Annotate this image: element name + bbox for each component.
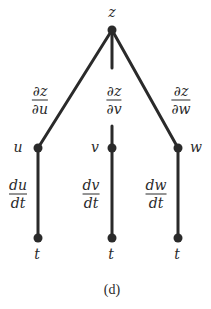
numerator: dw [146, 178, 167, 193]
deriv-v-t: dv dt [83, 178, 100, 211]
leaf-label-2: t [108, 247, 114, 261]
leaf-label-3: t [174, 247, 180, 261]
node-label-w: w [190, 140, 202, 154]
denominator: ∂w [171, 102, 190, 117]
denominator: ∂u [32, 102, 48, 117]
partial-z-v: ∂z ∂v [106, 84, 121, 117]
root-label: z [108, 5, 115, 19]
denominator: ∂v [106, 102, 121, 117]
denominator: dt [84, 196, 99, 211]
node-label-v: v [91, 140, 99, 154]
partial-z-w: ∂z ∂w [171, 84, 190, 117]
node-label-u: u [13, 140, 22, 154]
node-v [108, 144, 117, 153]
edge-z-u [38, 30, 112, 148]
node-t1 [34, 234, 43, 243]
node-z [108, 26, 117, 35]
figure-caption: (d) [104, 282, 120, 298]
numerator: dv [83, 178, 100, 193]
leaf-label-1: t [34, 247, 40, 261]
partial-z-u: ∂z ∂u [32, 84, 48, 117]
numerator: ∂z [107, 84, 122, 99]
tree-edges [0, 0, 211, 309]
denominator: dt [149, 196, 164, 211]
node-u [34, 144, 43, 153]
numerator: ∂z [174, 84, 189, 99]
deriv-w-t: dw dt [146, 178, 167, 211]
numerator: ∂z [33, 84, 48, 99]
deriv-u-t: du dt [9, 178, 27, 211]
denominator: dt [11, 196, 26, 211]
node-t3 [174, 234, 183, 243]
numerator: du [9, 178, 27, 193]
node-t2 [108, 234, 117, 243]
node-w [174, 144, 183, 153]
edge-z-w [112, 30, 178, 148]
